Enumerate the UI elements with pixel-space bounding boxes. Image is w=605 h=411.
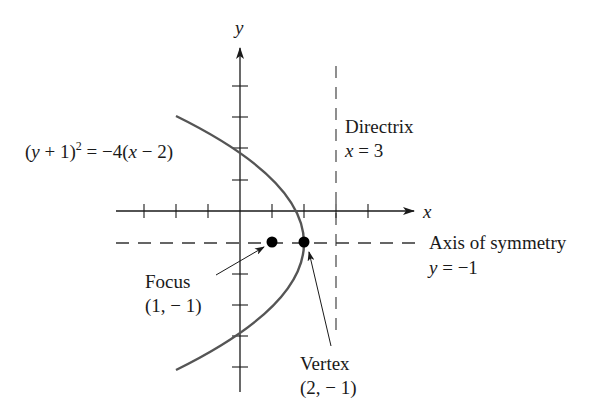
equation-label: (y + 1)2 = −4(x − 2): [25, 139, 173, 163]
directrix-title: Directrix: [345, 116, 414, 137]
axis-of-symmetry-title: Axis of symmetry: [429, 232, 567, 253]
y-axis: [232, 48, 248, 392]
focus-point: [267, 237, 278, 248]
vertex-pointer-arrow: [309, 252, 331, 346]
y-axis-label: y: [233, 17, 244, 38]
vertex-coords: (2, − 1): [300, 377, 357, 399]
directrix-equation: x = 3: [344, 140, 383, 161]
axis-of-symmetry-equation: y = −1: [427, 257, 478, 278]
x-axis: [116, 204, 414, 218]
vertex-point: [299, 237, 310, 248]
focus-coords: (1, − 1): [145, 295, 202, 317]
parabola-diagram: y x (y + 1)2 = −4(x − 2) Directrix x = 3…: [0, 0, 605, 411]
x-axis-label: x: [422, 201, 432, 222]
vertex-title: Vertex: [300, 353, 350, 374]
focus-title: Focus: [145, 271, 190, 292]
